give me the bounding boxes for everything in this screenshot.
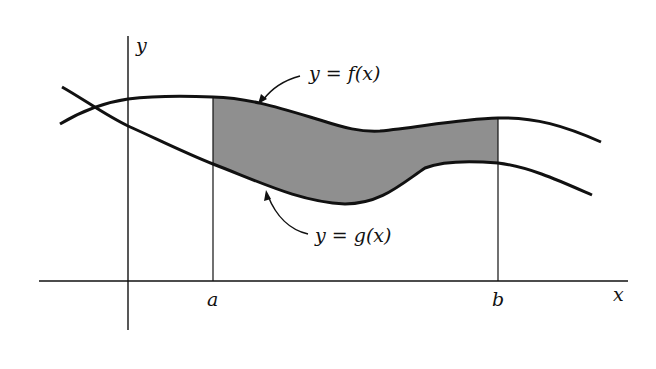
g-curve-label: y = g(x): [314, 224, 391, 246]
f-label-arrow: [263, 76, 300, 100]
shaded-region: [213, 97, 498, 204]
y-axis-label: y: [135, 34, 147, 56]
x-axis-label: x: [613, 283, 624, 305]
a-label: a: [207, 288, 218, 310]
b-label: b: [492, 288, 504, 310]
area-between-curves-figure: y x a b y = f(x) y = g(x): [0, 0, 656, 369]
g-label-arrow: [268, 196, 308, 234]
f-curve-label: y = f(x): [308, 62, 380, 84]
